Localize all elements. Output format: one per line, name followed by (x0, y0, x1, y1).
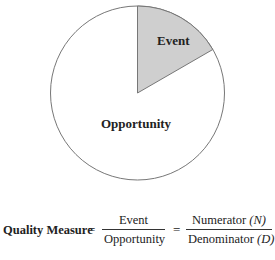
denominator-symbol: (D) (257, 232, 274, 246)
fraction-numerator: Numerator (N) (186, 212, 272, 230)
equation-lhs: Quality Measure (3, 223, 93, 238)
pie-chart (0, 0, 275, 190)
fraction-denominator: Opportunity (102, 230, 165, 247)
opportunity-slice-label: Opportunity (101, 116, 171, 132)
numerator-word: Numerator (192, 213, 246, 227)
event-slice-label: Event (157, 33, 190, 49)
equals-sign: = (88, 222, 95, 238)
equals-sign: = (173, 222, 180, 238)
numerator-symbol: (N) (249, 213, 266, 227)
fraction-denominator: Denominator (D) (186, 230, 272, 247)
denominator-word: Denominator (188, 232, 254, 246)
numerator-denominator-fraction: Numerator (N) Denominator (D) (186, 212, 272, 247)
event-opportunity-fraction: Event Opportunity (102, 212, 165, 247)
quality-measure-equation: Quality Measure = Event Opportunity = Nu… (0, 212, 275, 252)
fraction-numerator: Event (102, 212, 165, 230)
